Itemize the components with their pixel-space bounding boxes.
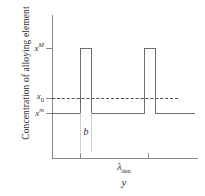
lambda-subscript: den	[121, 167, 130, 174]
b-label: b	[70, 126, 102, 137]
curve-segment-rise-2	[144, 48, 145, 114]
curve-segment-rise-1	[80, 48, 81, 114]
lambda-den-label: λden	[90, 161, 158, 174]
x-axis-title: y	[90, 176, 158, 188]
curve-segment-fall-2	[155, 48, 156, 114]
curve-segment-base-1	[52, 113, 81, 114]
curve-segment-base-2	[91, 113, 145, 114]
concentration-profile-figure: Concentration of alloying element xM x0 …	[0, 0, 205, 196]
curve-segment-base-3	[155, 113, 195, 114]
curve-segment-fall-1	[91, 48, 92, 114]
